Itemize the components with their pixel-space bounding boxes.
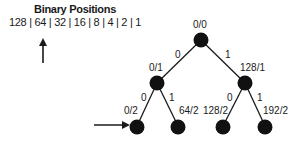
node-label-left: 0/1 [149, 62, 163, 73]
node-right [238, 76, 253, 91]
edge-label-left-left: 0 [141, 92, 147, 103]
node-root [194, 33, 209, 48]
node-label-left-right: 64/2 [179, 105, 199, 116]
node-label-right: 128/1 [240, 62, 265, 73]
node-label-right-left: 128/2 [203, 105, 228, 116]
edge-label-root-right: 1 [225, 49, 231, 60]
node-label-left-left: 0/2 [124, 105, 138, 116]
edge-label-root-left: 0 [175, 49, 181, 60]
edge-root-left [157, 40, 201, 83]
node-left-left [130, 120, 145, 135]
edge-label-right-left: 0 [227, 92, 233, 103]
node-left-right [171, 120, 186, 135]
binary-tree-diagram: 0/0 0/1 128/1 0/2 64/2 128/2 192/2 0 1 0… [0, 0, 303, 142]
node-label-root: 0/0 [193, 19, 207, 30]
node-label-right-right: 192/2 [263, 105, 288, 116]
edge-label-right-right: 1 [257, 92, 263, 103]
node-left [150, 76, 165, 91]
tree-nodes [130, 33, 273, 135]
node-right-left [216, 120, 231, 135]
node-right-right [258, 120, 273, 135]
edge-root-right [201, 40, 245, 83]
edge-label-left-right: 1 [169, 92, 175, 103]
